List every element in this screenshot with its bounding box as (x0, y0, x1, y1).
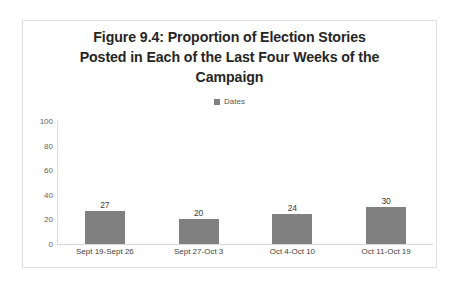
y-axis: 100 80 60 40 20 0 (23, 117, 57, 244)
bar-series: 27 20 24 30 (58, 121, 433, 244)
chart-title: Figure 9.4: Proportion of Election Stori… (23, 27, 436, 87)
x-category-label: Oct 4-Oct 10 (246, 247, 340, 256)
y-tick-label: 40 (44, 190, 53, 199)
bar-value-label: 20 (152, 208, 246, 218)
chart-title-line-1: Figure 9.4: Proportion of Election Stori… (23, 27, 436, 47)
bar-value-label: 27 (58, 200, 152, 210)
chart-title-line-2: Posted in Each of the Last Four Weeks of… (23, 47, 436, 67)
y-tick-label: 100 (40, 117, 53, 126)
plot-area: 100 80 60 40 20 0 27 20 24 (23, 117, 438, 269)
x-category-label: Sept 27-Oct 3 (152, 247, 246, 256)
y-tick-label: 60 (44, 166, 53, 175)
bar-rect[interactable] (85, 211, 125, 244)
bar-slot[interactable]: 30 (339, 121, 433, 244)
x-category-label: Oct 11-Oct 19 (339, 247, 433, 256)
y-tick-label: 20 (44, 215, 53, 224)
x-axis-line (57, 244, 433, 245)
x-axis: Sept 19-Sept 26 Sept 27-Oct 3 Oct 4-Oct … (58, 247, 433, 256)
chart-card: Figure 9.4: Proportion of Election Stori… (22, 20, 437, 268)
chart-page: Figure 9.4: Proportion of Election Stori… (0, 0, 456, 286)
bar-value-label: 30 (339, 196, 433, 206)
legend-swatch-icon (214, 99, 220, 105)
chart-title-line-3: Campaign (23, 67, 436, 87)
bar-slot[interactable]: 20 (152, 121, 246, 244)
bar-slot[interactable]: 27 (58, 121, 152, 244)
bar-rect[interactable] (179, 219, 219, 244)
bar-rect[interactable] (272, 214, 312, 244)
x-category-label: Sept 19-Sept 26 (58, 247, 152, 256)
y-tick-label: 0 (49, 240, 53, 249)
bar-slot[interactable]: 24 (246, 121, 340, 244)
chart-legend[interactable]: Dates (23, 97, 436, 106)
bar-rect[interactable] (366, 207, 406, 244)
bar-value-label: 24 (246, 203, 340, 213)
y-tick-label: 80 (44, 141, 53, 150)
legend-label-dates: Dates (224, 97, 245, 106)
